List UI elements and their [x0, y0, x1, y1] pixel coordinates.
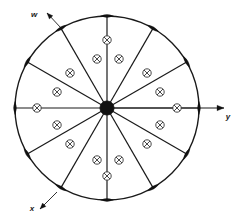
current-into-page-icon	[115, 55, 123, 63]
current-into-page-icon	[33, 104, 41, 112]
rim-marker-3	[101, 15, 114, 18]
current-into-page-icon	[53, 121, 61, 129]
current-into-page-icon	[173, 104, 181, 112]
y-axis-arrowhead	[217, 105, 224, 111]
spoke-4	[61, 28, 107, 108]
w-axis-label: w	[31, 10, 38, 19]
rim-marker-0	[198, 102, 201, 115]
current-into-page-icon	[93, 55, 101, 63]
current-into-page-icon	[156, 121, 164, 129]
current-into-page-icon	[156, 88, 164, 96]
rim-marker-4	[55, 25, 66, 32]
current-into-page-icon	[93, 156, 101, 164]
y-axis-label: y	[225, 112, 231, 121]
hub-layer	[100, 101, 114, 115]
rim-marker-1	[183, 56, 190, 67]
current-into-page-icon	[103, 36, 111, 44]
axis-labels-layer: ywx	[29, 10, 231, 213]
current-into-page-icon	[53, 88, 61, 96]
rim-marker-11	[183, 148, 190, 159]
x-axis-label: x	[29, 204, 35, 213]
rim-marker-10	[147, 184, 158, 191]
rim-marker-5	[24, 56, 31, 67]
current-into-page-icon	[143, 69, 151, 77]
center-hub	[100, 101, 114, 115]
rim-marker-9	[101, 199, 114, 202]
current-into-page-icon	[103, 172, 111, 180]
rim-marker-2	[147, 25, 158, 32]
radial-spoke-diagram: ywx	[0, 0, 240, 221]
current-into-page-icon	[115, 156, 123, 164]
figure-container: ywx	[0, 0, 240, 221]
rim-marker-8	[55, 184, 66, 191]
spoke-5	[27, 62, 107, 108]
current-into-page-icon	[66, 140, 74, 148]
rim-marker-7	[24, 148, 31, 159]
spoke-2	[107, 28, 153, 108]
rim-marker-6	[14, 102, 17, 115]
current-into-page-icon	[66, 69, 74, 77]
current-into-page-icon	[143, 140, 151, 148]
axes-layer	[40, 13, 224, 209]
